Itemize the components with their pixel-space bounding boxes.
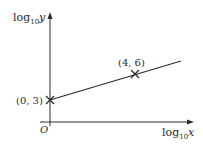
x-axis-label: log10x bbox=[162, 126, 195, 141]
point-label-0-3: (0, 3) bbox=[16, 95, 43, 106]
chart: log10y log10x O (0, 3) (4, 6) bbox=[0, 0, 203, 147]
data-line bbox=[50, 61, 181, 100]
x-axis-arrow-icon bbox=[187, 120, 194, 125]
point-label-4-6: (4, 6) bbox=[118, 57, 145, 68]
y-axis-arrow-icon bbox=[48, 12, 53, 19]
origin-label: O bbox=[40, 124, 48, 135]
y-axis-label: log10y bbox=[13, 11, 46, 26]
